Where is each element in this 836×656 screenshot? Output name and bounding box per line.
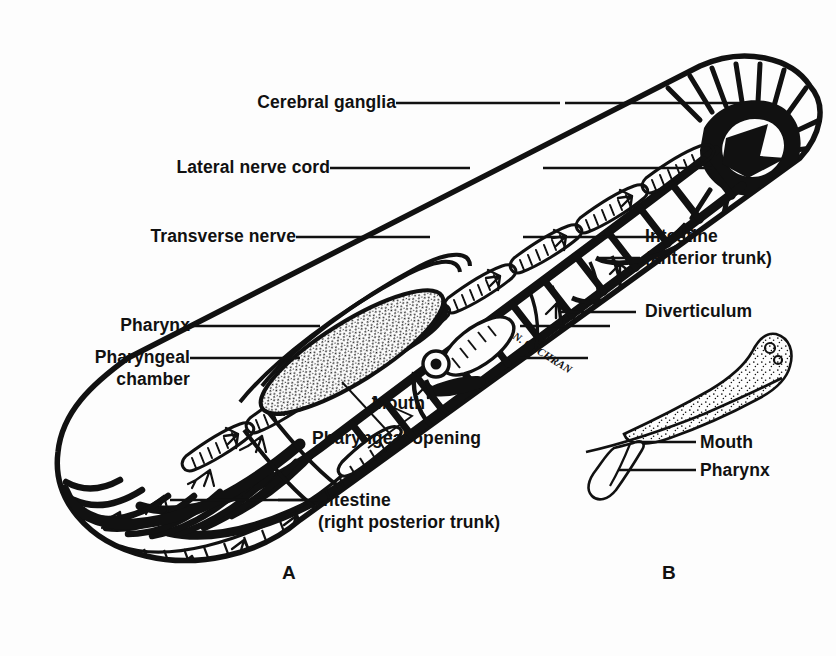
label-intestine-anterior-line1: Intestine	[645, 226, 718, 246]
label-pharyngeal-chamber-line1: Pharyngeal	[30, 347, 190, 367]
label-mouth-a: Mouth	[372, 393, 425, 413]
label-intestine-anterior-line2: (anterior trunk)	[645, 248, 772, 268]
label-intestine-posterior-line1: Intestine	[318, 490, 391, 510]
label-pharyngeal-opening: Pharyngeal opening	[312, 428, 481, 448]
label-cerebral-ganglia: Cerebral ganglia	[180, 92, 396, 112]
label-intestine-posterior-line2: (right posterior trunk)	[318, 512, 500, 532]
label-lateral-nerve-cord: Lateral nerve cord	[110, 157, 330, 177]
label-mouth-b: Mouth	[700, 432, 753, 452]
label-pharynx-a: Pharynx	[60, 315, 190, 335]
figure-canvas: N. COCHRAN	[0, 0, 836, 656]
panel-letter-b: B	[662, 562, 676, 584]
label-pharyngeal-chamber-line2: chamber	[30, 369, 190, 389]
label-transverse-nerve: Transverse nerve	[92, 226, 296, 246]
label-diverticulum: Diverticulum	[645, 301, 752, 321]
label-pharynx-b: Pharynx	[700, 460, 770, 480]
panel-letter-a: A	[282, 562, 296, 584]
